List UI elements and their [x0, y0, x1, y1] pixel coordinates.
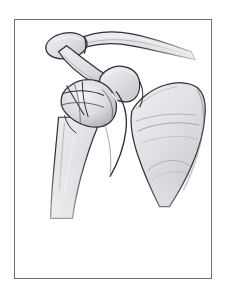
humerus-group [51, 80, 117, 219]
clavicle-texture [76, 32, 195, 60]
humeral-neck-taper [104, 123, 111, 177]
humerus-shaft-texture [51, 117, 102, 218]
figure-root: Shoulder joint anatomy illustration Ante… [0, 0, 227, 296]
clavicle-group [76, 32, 195, 60]
shoulder-joint-illustration [15, 20, 211, 278]
illustration-frame [14, 19, 212, 279]
